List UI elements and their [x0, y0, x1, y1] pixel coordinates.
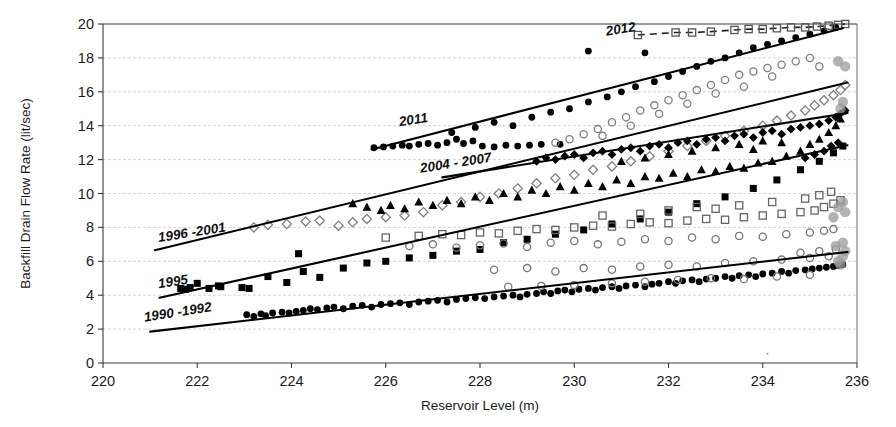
- data-point: [815, 135, 824, 143]
- data-point: [749, 145, 758, 153]
- data-point: [491, 293, 498, 300]
- data-point: [472, 124, 479, 131]
- data-point: [510, 292, 517, 299]
- x-tick-label-236: 236: [845, 373, 869, 389]
- data-point: [429, 252, 436, 259]
- data-point: [642, 49, 649, 56]
- data-point: [607, 162, 616, 171]
- data-point: [526, 142, 533, 149]
- data-point: [801, 106, 810, 115]
- data-point: [524, 264, 531, 271]
- data-point: [495, 230, 502, 237]
- data-point: [665, 220, 672, 227]
- data-point: [811, 207, 818, 214]
- data-point: [479, 143, 486, 150]
- y-tick-label-14: 14: [78, 118, 94, 134]
- data-point: [503, 142, 510, 149]
- data-point: [773, 273, 780, 280]
- data-point: [524, 291, 531, 298]
- data-point: [460, 140, 467, 147]
- data-point: [752, 273, 759, 280]
- data-point: [552, 268, 559, 275]
- data-point: [820, 227, 827, 234]
- data-point: [641, 172, 650, 180]
- data-point: [641, 153, 650, 161]
- data-point: [414, 197, 423, 205]
- y-tick-label-6: 6: [86, 253, 94, 269]
- data-point: [279, 309, 286, 316]
- data-point: [836, 86, 845, 95]
- data-point: [816, 192, 823, 199]
- annotation-2012: 2012: [604, 19, 637, 39]
- data-point: [749, 133, 758, 142]
- data-point: [517, 293, 524, 300]
- data-point: [570, 186, 579, 194]
- data-point: [377, 206, 386, 214]
- chart-figure: 0246810121416182022022222422622823023223…: [0, 0, 896, 427]
- data-point: [556, 182, 565, 190]
- data-point: [838, 97, 848, 107]
- data-point: [721, 76, 728, 83]
- data-point: [750, 68, 757, 75]
- data-point: [485, 196, 494, 204]
- data-point: [532, 179, 541, 188]
- data-point: [533, 290, 540, 297]
- data-point: [665, 97, 672, 104]
- data-point: [838, 197, 848, 207]
- data-point: [594, 241, 601, 248]
- data-point: [721, 216, 728, 223]
- data-point: [786, 111, 795, 120]
- data-point: [604, 93, 611, 100]
- data-point: [239, 284, 246, 291]
- x-tick-label-222: 222: [185, 373, 209, 389]
- data-point: [665, 278, 672, 285]
- x-tick-label-230: 230: [562, 373, 586, 389]
- data-point: [491, 119, 498, 126]
- data-point: [679, 92, 686, 99]
- data-point: [833, 56, 843, 66]
- data-point: [315, 216, 324, 225]
- data-point: [740, 83, 747, 90]
- data-point: [693, 87, 700, 94]
- data-point: [759, 271, 766, 278]
- data-point: [797, 249, 804, 256]
- data-point: [608, 221, 615, 228]
- series-misc-open-circle-low: [406, 225, 840, 290]
- data-point: [476, 229, 483, 236]
- data-point: [840, 207, 850, 217]
- data-point: [819, 96, 828, 105]
- data-point: [805, 140, 814, 148]
- data-point: [406, 254, 413, 261]
- data-point: [830, 225, 837, 232]
- data-point: [419, 208, 428, 217]
- data-point: [736, 71, 743, 78]
- data-point: [735, 140, 744, 148]
- data-point: [554, 288, 561, 295]
- data-point: [627, 220, 634, 227]
- data-point: [816, 158, 823, 165]
- data-point: [688, 234, 695, 241]
- data-point: [568, 288, 575, 295]
- data-point: [796, 147, 805, 155]
- data-point: [510, 122, 517, 129]
- data-point: [618, 88, 625, 95]
- data-point: [665, 261, 672, 268]
- data-point: [481, 295, 488, 302]
- data-point: [810, 101, 819, 110]
- data-point: [815, 120, 824, 129]
- data-point: [632, 282, 639, 289]
- data-point: [547, 109, 554, 116]
- data-point: [683, 172, 692, 180]
- y-tick-label-10: 10: [78, 186, 94, 202]
- data-point: [533, 225, 540, 232]
- data-point: [777, 138, 786, 146]
- data-point: [194, 280, 201, 287]
- y-tick-label-0: 0: [86, 355, 94, 371]
- data-point: [778, 61, 785, 68]
- data-point: [589, 165, 598, 174]
- data-point: [514, 227, 521, 234]
- data-point: [616, 285, 623, 292]
- data-point: [570, 170, 579, 179]
- data-point: [585, 99, 592, 106]
- data-point: [547, 239, 554, 246]
